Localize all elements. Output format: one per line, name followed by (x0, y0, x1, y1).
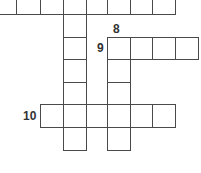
clue-number: 10 (23, 110, 36, 122)
crossword-cell[interactable] (130, 0, 153, 15)
crossword-cell[interactable] (63, 104, 87, 128)
crossword-cell[interactable] (107, 37, 131, 60)
clue-number: 8 (113, 23, 120, 35)
crossword-cell[interactable] (175, 37, 199, 60)
crossword-cell[interactable] (107, 0, 131, 15)
crossword-cell[interactable] (63, 14, 87, 38)
crossword-cell[interactable] (152, 0, 176, 15)
crossword-cell[interactable] (130, 104, 153, 128)
crossword-cell[interactable] (86, 0, 108, 15)
crossword-cell[interactable] (107, 59, 131, 83)
crossword-cell[interactable] (63, 37, 87, 60)
crossword-cell[interactable] (152, 104, 176, 128)
crossword-cell[interactable] (130, 37, 153, 60)
crossword-cell[interactable] (107, 104, 131, 128)
crossword-cell[interactable] (107, 82, 131, 105)
crossword-cell[interactable] (0, 0, 17, 15)
crossword-cell[interactable] (63, 59, 87, 83)
crossword-cell[interactable] (63, 0, 87, 15)
crossword-cell[interactable] (16, 0, 41, 15)
crossword-cell[interactable] (40, 104, 64, 128)
crossword-cell[interactable] (63, 82, 87, 105)
crossword-cell[interactable] (63, 127, 87, 151)
crossword-cell[interactable] (86, 104, 108, 128)
crossword-cell[interactable] (40, 0, 64, 15)
crossword-cell[interactable] (152, 37, 176, 60)
crossword-cell[interactable] (107, 127, 131, 151)
clue-number: 9 (97, 42, 104, 54)
